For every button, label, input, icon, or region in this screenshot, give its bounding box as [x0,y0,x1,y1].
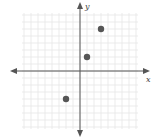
coordinate-plane: y x [0,0,153,138]
data-point [63,96,69,102]
y-axis-label: y [84,2,90,11]
y-axis-up-arrow-icon [77,2,83,9]
data-point [98,26,104,32]
y-axis-down-arrow-icon [77,130,83,137]
x-axis-label: x [146,75,151,84]
x-axis-left-arrow-icon [10,68,17,74]
x-axis-right-arrow-icon [143,68,150,74]
data-point [84,54,90,60]
